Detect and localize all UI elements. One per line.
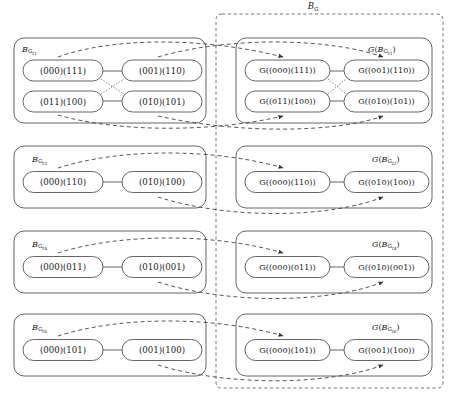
row-1-left-node-2-label: (001)(110) (139, 66, 185, 76)
row-4-map-arc-bottom (158, 365, 383, 381)
row-1-right-node-2 (344, 60, 429, 81)
row-4-left-panel-label: BGt6 (31, 323, 47, 335)
row-1-left-node-1 (23, 60, 103, 81)
row-1-left-edge-diag-b (101, 79, 124, 94)
row-2-left-node-2 (122, 172, 202, 193)
row-1: BGt1 G(BGt1) (000)(111) (001)(110) (011)… (14, 38, 432, 129)
row-1-map-arc-bottom-1 (58, 115, 283, 128)
row-3-left-node-1 (23, 257, 103, 278)
row-2-left-node-1 (23, 172, 103, 193)
row-4-left-node-1 (23, 340, 103, 361)
row-3-left-node-2-label: (010)(001) (139, 262, 185, 272)
row-3: BGt4 G(BGt4) (000)(011) (010)(001) G((00… (14, 231, 432, 299)
row-1-right-node-2-label: G((001)(110)) (358, 65, 414, 75)
row-4-left-node-1-label: (000)(101) (40, 345, 86, 355)
row-1-right-node-4 (344, 91, 429, 112)
row-3-right-panel-label: G(BGt4) (372, 240, 400, 252)
row-1-left-node-3 (23, 91, 103, 112)
row-2-left-node-2-label: (010)(100) (139, 177, 185, 187)
row-3-right-node-2 (344, 257, 429, 278)
row-2: BGt2 G(BGt2) (000)(110) (010)(100) G((00… (14, 146, 432, 214)
row-3-right-node-1 (245, 257, 330, 278)
outer-container-label: BG (307, 1, 319, 12)
row-4-right-node-1-label: G((000)(101)) (259, 345, 315, 355)
row-3-right-node-1-label: G((000)(011)) (259, 262, 315, 272)
row-1-right-edge-diag-a (328, 79, 346, 94)
row-1-right-node-1 (245, 60, 330, 81)
row-2-map-arc-bottom (158, 197, 383, 214)
diagram-canvas: BG BGt1 G(BGt1) (000)(111) (001)(110) (0, 0, 451, 395)
row-2-right-node-2-label: G((010)(100)) (358, 177, 414, 187)
row-4-right-node-2-label: G((001)(100)) (358, 345, 414, 355)
row-3-left-panel (14, 231, 206, 293)
row-3-right-panel (236, 231, 432, 293)
row-3-map-arc-bottom (158, 282, 383, 299)
row-3-left-panel-label: BGt4 (31, 240, 47, 252)
row-2-left-panel-label: BGt2 (31, 155, 47, 167)
row-1-left-edge-diag-a (101, 79, 124, 94)
row-2-right-node-1-label: G((000)(110)) (259, 177, 315, 187)
row-1-left-node-2 (122, 60, 202, 81)
row-4-right-panel (236, 314, 432, 376)
row-4-left-node-2-label: (001)(100) (139, 345, 185, 355)
row-4-right-node-2 (344, 340, 429, 361)
row-4-left-node-2 (122, 340, 202, 361)
diagram-svg: BG BGt1 G(BGt1) (000)(111) (001)(110) (0, 0, 451, 395)
row-1-right-node-4-label: G((010)(101)) (358, 96, 414, 106)
outer-container-bg (216, 14, 443, 388)
row-4-right-panel-label: G(BGt6) (372, 323, 400, 335)
row-1-right-panel-label: G(BGt1) (368, 45, 396, 57)
row-4-left-panel (14, 314, 206, 376)
row-2-right-panel (236, 146, 432, 208)
row-3-map-arc-top (58, 238, 283, 253)
row-1-left-node-4 (122, 91, 202, 112)
row-1-map-arc-bottom-2 (158, 116, 383, 129)
row-3-left-node-1-label: (000)(011) (40, 262, 86, 272)
row-1-right-node-1-label: G((000)(111)) (259, 65, 315, 75)
row-2-right-node-2 (344, 172, 429, 193)
row-1-left-panel (14, 38, 206, 123)
row-4-right-node-1 (245, 340, 330, 361)
row-1-right-node-3 (245, 91, 330, 112)
row-1-left-node-1-label: (000)(111) (40, 66, 86, 76)
row-1-map-arc-top-1 (58, 42, 283, 57)
row-2-right-node-1 (245, 172, 330, 193)
row-1-right-edge-diag-b (328, 79, 346, 94)
row-3-right-node-2-label: G((010)(001)) (358, 262, 414, 272)
row-3-left-node-2 (122, 257, 202, 278)
row-1-left-node-4-label: (010)(101) (139, 97, 185, 107)
row-4: BGt6 G(BGt6) (000)(101) (001)(100) G((00… (14, 314, 432, 381)
row-1-right-node-3-label: G((011)(100)) (259, 96, 315, 106)
row-1-left-node-3-label: (011)(100) (40, 97, 86, 107)
row-2-right-panel-label: G(BGt2) (372, 155, 400, 167)
row-1-left-panel-label: BGt1 (21, 45, 37, 57)
row-1-map-arc-top-2 (158, 42, 383, 57)
row-1-right-panel (236, 38, 432, 123)
row-2-left-panel (14, 146, 206, 208)
row-2-left-node-1-label: (000)(110) (40, 177, 86, 187)
row-4-map-arc-top (58, 321, 283, 336)
row-2-map-arc-top (58, 153, 283, 168)
